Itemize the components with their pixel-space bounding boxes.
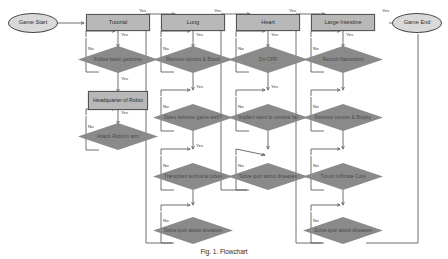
- edge-label-yes: Yes: [121, 77, 128, 81]
- decision-implant-stent: Implant stent to remove fat: [228, 104, 308, 131]
- edge-label-yes: Yes: [271, 33, 278, 37]
- decision-does-defence-game-well-label: Does defence game well?: [153, 104, 233, 131]
- edge-label-yes: Yes: [289, 9, 296, 13]
- terminal-game-start-label: Game Start: [19, 20, 48, 26]
- edge-label-yes: Yes: [271, 85, 278, 89]
- decision-follow-basic-gestures-label: Follow basic gestures: [78, 46, 158, 73]
- decision-does-defence-game-well: Does defence game well?: [153, 104, 233, 131]
- decision-tumor-infiltrate-cure: Tumor Infiltrate Cure: [303, 163, 383, 190]
- edge-label-yes: Yes: [139, 9, 146, 13]
- process-lung: Lung: [161, 14, 225, 31]
- process-tutorial: Tutorial: [86, 14, 150, 31]
- decision-do-cpr: Do CPR: [228, 46, 308, 73]
- decision-remove-tumors-biopsy: Remove tumors & Biopsy: [303, 104, 383, 131]
- decision-intestine-solve-quiz-label: Solve quiz about diseases: [303, 217, 383, 244]
- decision-heart-solve-quiz-label: Solve quiz about diseases: [228, 163, 308, 190]
- decision-tumor-infiltrate-cure-label: Tumor Infiltrate Cure: [303, 163, 383, 190]
- terminal-game-end-label: Game End: [404, 20, 431, 26]
- figure-caption: Fig. 1. Flowchart: [0, 248, 448, 255]
- edge-label-yes: Yes: [121, 33, 128, 37]
- process-tutorial-label: Tutorial: [109, 20, 127, 26]
- decision-remove-tumors-blood: Remove tumors & Blood: [153, 46, 233, 73]
- decision-lung-solve-quiz: Solve quiz about diseases: [153, 217, 233, 244]
- process-heart: Heart: [236, 14, 300, 31]
- decision-heart-solve-quiz: Solve quiz about diseases: [228, 163, 308, 190]
- decision-remove-tumors-biopsy-label: Remove tumors & Biopsy: [303, 104, 383, 131]
- process-headquarter-of-robot-label: Headquarter of Robot: [93, 98, 143, 103]
- decision-remove-tumors-blood-label: Remove tumors & Blood: [153, 46, 233, 73]
- edge-label-yes: Yes: [214, 9, 221, 13]
- decision-attack-robots-arm-label: Attack Robot's arm: [78, 123, 158, 150]
- edge-label-yes: Yes: [196, 85, 203, 89]
- terminal-game-end: Game End: [392, 13, 442, 33]
- decision-follow-basic-gestures: Follow basic gestures: [78, 46, 158, 73]
- process-headquarter-of-robot: Headquarter of Robot: [88, 91, 148, 110]
- decision-recruit-nanorobot-label: Recruit Nanorobot: [303, 46, 383, 73]
- edge-label-yes: Yes: [121, 111, 128, 115]
- decision-intestine-solve-quiz: Solve quiz about diseases: [303, 217, 383, 244]
- edge-label-yes-exit: Yes: [382, 9, 389, 13]
- decision-do-cpr-label: Do CPR: [228, 46, 308, 73]
- decision-transplant-technical-tubes: Transplant technical tubes: [153, 163, 233, 190]
- process-large-intestine: Large Intestine: [311, 14, 375, 31]
- process-large-intestine-label: Large Intestine: [324, 20, 361, 26]
- decision-attack-robots-arm: Attack Robot's arm: [78, 123, 158, 150]
- edge-label-yes: Yes: [346, 33, 353, 37]
- decision-lung-solve-quiz-label: Solve quiz about diseases: [153, 217, 233, 244]
- flowchart-figure: Game Start Game End Tutorial Lung Heart …: [0, 0, 448, 259]
- decision-implant-stent-label: Implant stent to remove fat: [228, 104, 308, 131]
- decision-transplant-technical-tubes-label: Transplant technical tubes: [153, 163, 233, 190]
- process-heart-label: Heart: [261, 20, 275, 26]
- terminal-game-start: Game Start: [8, 13, 58, 33]
- edge-label-yes: Yes: [196, 33, 203, 37]
- process-lung-label: Lung: [187, 20, 199, 26]
- decision-recruit-nanorobot: Recruit Nanorobot: [303, 46, 383, 73]
- edge-label-yes: Yes: [196, 144, 203, 148]
